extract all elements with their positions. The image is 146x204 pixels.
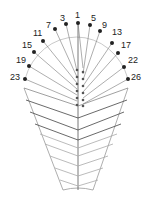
electrode-label: 26 [131,73,141,82]
electrode-label: 3 [60,14,65,23]
electrode-dot [122,65,126,69]
chevron-lines [24,88,128,186]
electrode-label: 13 [112,28,122,37]
electrode-dot [110,41,114,45]
electrode-label: 9 [102,21,107,30]
electrode-label: 23 [10,73,20,82]
electrode-dot [88,23,92,27]
electrode-label: 22 [128,56,138,65]
electrode-dot [23,77,27,81]
electrode-dot [27,64,31,68]
electrode-label: 7 [46,21,51,30]
center-dots [76,69,85,108]
electrode-label: 1 [75,11,80,20]
electrode-dot [41,39,45,43]
electrode-label: 11 [33,29,42,38]
electrode-dot [32,50,36,54]
electrode-dot [53,27,57,31]
electrode-dot [76,21,80,25]
electrode-dot [116,51,120,55]
electrode-diagram [0,0,146,204]
electrode-label: 5 [91,14,96,23]
electrode-label: 17 [121,41,131,50]
electrode-dot [126,77,130,81]
electrode-label: 19 [16,56,26,65]
electrode-label: 15 [22,41,32,50]
